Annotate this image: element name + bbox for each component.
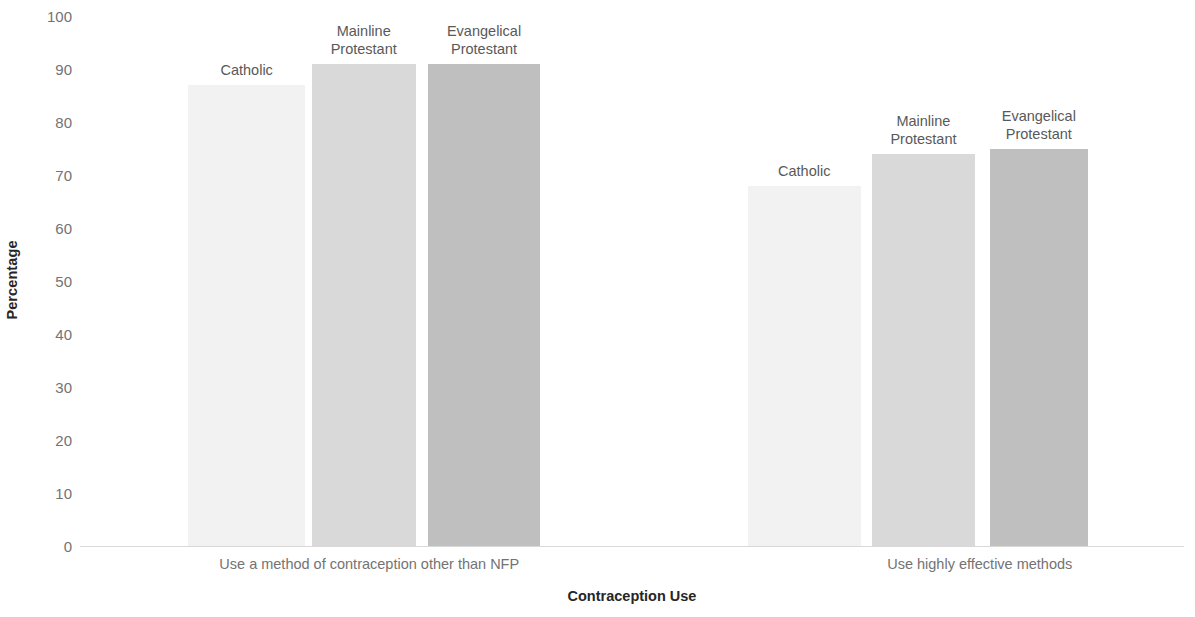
y-axis-tick-label: 60 — [22, 221, 72, 236]
y-axis-tick-label: 50 — [22, 274, 72, 289]
y-axis-tick-label: 70 — [22, 168, 72, 183]
x-axis-category-label: Use highly effective methods — [887, 556, 1072, 572]
y-axis-title-text: Percentage — [4, 240, 20, 319]
y-axis-tick-labels: 1009080706050403020100 — [22, 0, 72, 560]
bar — [312, 64, 416, 546]
y-axis-tick-label: 30 — [22, 380, 72, 395]
bar — [188, 85, 305, 546]
bar-series-label: Evangelical Protestant — [395, 22, 574, 58]
y-axis-tick-label: 10 — [22, 486, 72, 501]
bar-series-label: Evangelical Protestant — [957, 107, 1121, 143]
x-axis-title: Contraception Use — [80, 588, 1184, 604]
y-axis-tick-label: 0 — [22, 539, 72, 554]
x-axis-line — [80, 546, 1184, 547]
bar-chart: Percentage 1009080706050403020100 Cathol… — [0, 0, 1195, 617]
plot-area: CatholicMainline ProtestantEvangelical P… — [80, 16, 1184, 546]
x-axis-category-label: Use a method of contraception other than… — [219, 556, 519, 572]
bar — [428, 64, 541, 546]
x-axis-category-labels: Use a method of contraception other than… — [80, 556, 1184, 582]
bar-series-label: Catholic — [155, 61, 338, 79]
bar-series-label: Catholic — [715, 162, 894, 180]
y-axis-tick-label: 80 — [22, 115, 72, 130]
y-axis-tick-label: 100 — [22, 9, 72, 24]
bar — [748, 186, 861, 546]
y-axis-tick-label: 20 — [22, 433, 72, 448]
bar — [872, 154, 976, 546]
y-axis-title: Percentage — [0, 0, 24, 560]
y-axis-tick-label: 40 — [22, 327, 72, 342]
bar — [990, 149, 1088, 547]
y-axis-tick-label: 90 — [22, 62, 72, 77]
